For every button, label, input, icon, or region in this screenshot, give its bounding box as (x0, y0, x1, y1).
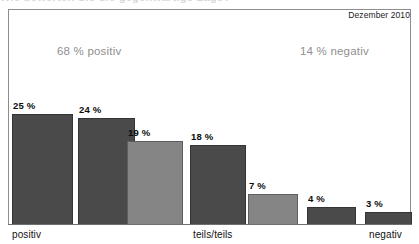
bar-value-label: 3 % (366, 198, 383, 209)
axis-baseline (8, 224, 412, 225)
bar-chart: Wie bewerten Sie die gegenwärtige Lage? … (0, 0, 419, 244)
bar-value-label: 19 % (128, 127, 150, 138)
bar (307, 207, 356, 225)
axis-label-negativ: negativ (369, 229, 402, 240)
date-badge: Dezember 2010 (348, 10, 410, 20)
positive-summary-annotation: 68 % positiv (57, 45, 121, 57)
bar (248, 194, 298, 225)
bar (365, 212, 412, 225)
bar-value-label: 25 % (13, 100, 35, 111)
bar (190, 145, 246, 225)
bar-value-label: 4 % (308, 193, 325, 204)
cropped-title-remnant: Wie bewerten Sie die gegenwärtige Lage? (0, 0, 419, 3)
bar (12, 114, 73, 225)
axis-label-teils-teils: teils/teils (193, 229, 232, 240)
bar-value-label: 18 % (191, 131, 213, 142)
negative-summary-annotation: 14 % negativ (300, 45, 369, 57)
bar (127, 141, 183, 225)
bar-value-label: 24 % (79, 104, 101, 115)
bar-value-label: 7 % (249, 180, 266, 191)
axis-label-positiv: positiv (12, 229, 41, 240)
